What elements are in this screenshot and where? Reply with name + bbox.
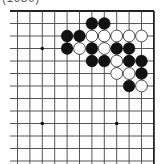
white-stone bbox=[111, 30, 123, 42]
black-stone bbox=[86, 55, 98, 67]
black-stone bbox=[74, 30, 86, 42]
black-stone bbox=[86, 43, 98, 55]
white-stone bbox=[111, 68, 123, 80]
black-stone bbox=[98, 18, 110, 30]
black-stone bbox=[61, 43, 73, 55]
black-stone bbox=[86, 18, 98, 30]
black-stone bbox=[111, 43, 123, 55]
white-stone bbox=[86, 30, 98, 42]
white-stone bbox=[123, 30, 135, 42]
black-stone bbox=[136, 55, 148, 67]
black-stone bbox=[123, 43, 135, 55]
star-point bbox=[41, 122, 45, 126]
black-stone bbox=[123, 55, 135, 67]
white-stone bbox=[98, 30, 110, 42]
black-stone bbox=[136, 68, 148, 80]
go-board bbox=[0, 0, 161, 164]
white-stone bbox=[136, 30, 148, 42]
star-point bbox=[115, 122, 119, 126]
black-stone bbox=[123, 80, 135, 92]
white-stone bbox=[111, 55, 123, 67]
white-stone bbox=[136, 80, 148, 92]
black-stone bbox=[61, 30, 73, 42]
black-stone bbox=[98, 55, 110, 67]
star-point bbox=[41, 47, 45, 51]
white-stone bbox=[74, 43, 86, 55]
white-stone bbox=[123, 68, 135, 80]
white-stone bbox=[98, 43, 110, 55]
